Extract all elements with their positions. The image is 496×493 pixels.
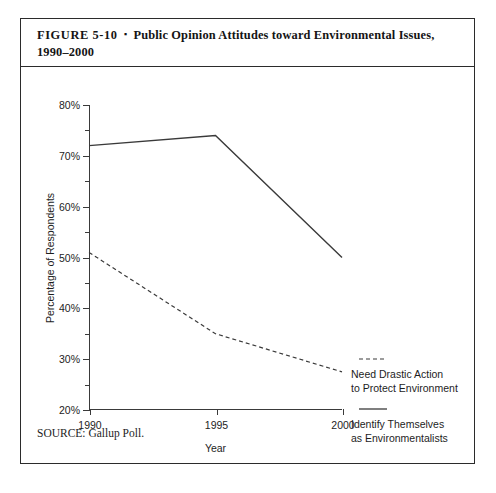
legend-entry-identify-environmentalists: Identify Themselves as Environmentalists <box>351 400 481 445</box>
figure-box: FIGURE 5-10 ▪ Public Opinion Attitudes t… <box>20 18 475 464</box>
figure-source: SOURCE: Gallup Poll. <box>37 427 144 439</box>
series-line-dashed <box>89 252 342 371</box>
plot-area: Percentage of Respondents 20%30%40%50%60… <box>21 67 476 463</box>
bullet-separator-icon: ▪ <box>121 29 130 39</box>
caption-text: FIGURE 5-10 ▪ Public Opinion Attitudes t… <box>37 26 458 61</box>
caption-title-line1: Public Opinion Attitudes toward Environm… <box>133 28 434 42</box>
legend-label-identify-environmentalists-line1: Identify Themselves <box>351 418 481 432</box>
legend-label-need-drastic-action-line2: to Protect Environment <box>351 382 481 396</box>
legend-swatch-solid-icon <box>359 405 387 413</box>
caption-title-line2: 1990–2000 <box>37 45 94 59</box>
series-line-solid <box>89 136 342 258</box>
legend-swatch-dashed-icon <box>359 355 387 363</box>
figure-number: FIGURE 5-10 <box>37 28 118 42</box>
figure-caption: FIGURE 5-10 ▪ Public Opinion Attitudes t… <box>21 19 474 67</box>
legend-label-identify-environmentalists-line2: as Environmentalists <box>351 432 481 446</box>
legend-label-need-drastic-action-line1: Need Drastic Action <box>351 368 481 382</box>
legend-entry-need-drastic-action: Need Drastic Action to Protect Environme… <box>351 350 481 395</box>
